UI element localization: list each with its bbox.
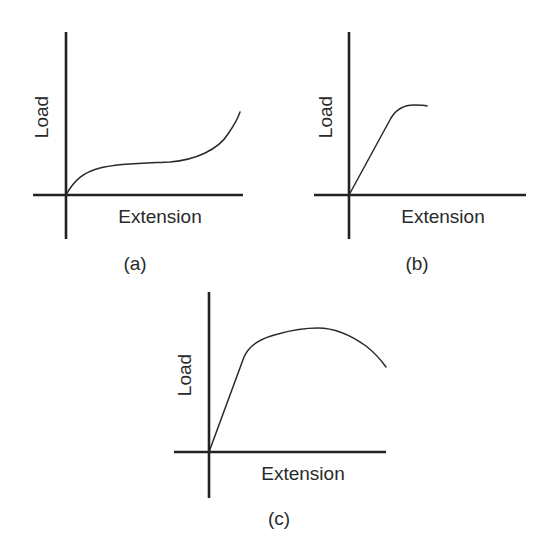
x-axis-label: Extension bbox=[401, 206, 484, 227]
x-axis-label: Extension bbox=[118, 206, 201, 227]
panel-caption: (b) bbox=[405, 253, 428, 274]
panel-c: Load Extension (c) bbox=[174, 292, 386, 529]
panel-a: Load Extension (a) bbox=[31, 32, 243, 274]
y-axis-label: Load bbox=[174, 354, 195, 396]
y-axis-label: Load bbox=[31, 96, 52, 138]
panel-caption: (c) bbox=[268, 508, 290, 529]
panel-caption: (a) bbox=[123, 253, 146, 274]
load-curve-c bbox=[209, 328, 386, 452]
load-extension-figure: Load Extension (a) Load Extension (b) Lo… bbox=[0, 0, 549, 556]
y-axis-label: Load bbox=[315, 96, 336, 138]
load-curve-a bbox=[66, 112, 240, 195]
x-axis-label: Extension bbox=[261, 463, 344, 484]
load-curve-b bbox=[349, 105, 427, 195]
panel-b: Load Extension (b) bbox=[314, 32, 526, 274]
